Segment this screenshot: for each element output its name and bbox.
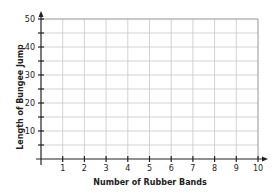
chart: 12345678910 1020304050 Number of Rubber … bbox=[0, 0, 275, 193]
x-tick-label: 6 bbox=[169, 164, 174, 173]
x-tick-label: 5 bbox=[147, 164, 152, 173]
y-tick-label: 40 bbox=[25, 43, 35, 52]
x-tick-label: 2 bbox=[82, 164, 87, 173]
x-tick-label: 9 bbox=[234, 164, 239, 173]
y-tick-label: 10 bbox=[25, 127, 35, 136]
y-axis-arrow-icon bbox=[39, 11, 44, 17]
axes bbox=[36, 11, 268, 165]
x-tick-label: 4 bbox=[125, 164, 130, 173]
y-axis-title: Length of Bungee Jump bbox=[16, 44, 25, 150]
y-tick-label: 20 bbox=[25, 99, 35, 108]
x-tick-label: 8 bbox=[212, 164, 217, 173]
y-tick-label: 30 bbox=[25, 71, 35, 80]
y-tick-label: 50 bbox=[25, 15, 35, 24]
x-tick-label: 7 bbox=[190, 164, 195, 173]
x-axis-arrow-icon bbox=[262, 157, 268, 162]
x-tick-label: 1 bbox=[60, 164, 65, 173]
x-axis-title: Number of Rubber Bands bbox=[93, 178, 207, 187]
grid-lines bbox=[41, 19, 258, 159]
x-tick-label: 3 bbox=[104, 164, 109, 173]
x-tick-label: 10 bbox=[253, 164, 263, 173]
